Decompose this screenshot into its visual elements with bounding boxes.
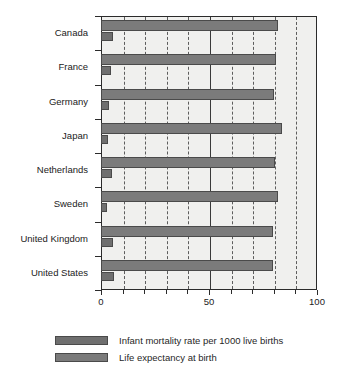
bar-infant-mortality xyxy=(101,32,113,41)
x-axis-tick-label: 0 xyxy=(98,296,103,308)
x-axis-tick-label: 50 xyxy=(204,296,215,308)
bars-layer xyxy=(101,16,317,290)
bar-infant-mortality xyxy=(101,66,111,75)
y-axis-label: Germany xyxy=(49,96,88,107)
y-axis-label: Japan xyxy=(62,130,88,141)
bar-chart: CanadaFranceGermanyJapanNetherlandsSwede… xyxy=(0,0,340,376)
bar-infant-mortality xyxy=(101,169,112,178)
y-axis-label: Sweden xyxy=(54,198,88,209)
legend-item: Life expectancy at birth xyxy=(55,349,340,366)
x-axis-tick-label: 100 xyxy=(309,296,325,308)
bar-infant-mortality xyxy=(101,203,107,212)
legend-label: Infant mortality rate per 1000 live birt… xyxy=(119,335,283,347)
x-axis-tick xyxy=(274,290,275,294)
x-axis-tick xyxy=(101,290,102,295)
legend-swatch-life xyxy=(55,353,108,362)
bar-life-expectancy xyxy=(101,54,276,65)
x-axis-tick xyxy=(295,290,296,294)
bar-group xyxy=(101,119,317,153)
bar-life-expectancy xyxy=(101,89,274,100)
y-axis-tick xyxy=(95,85,101,86)
bar-life-expectancy xyxy=(101,260,273,271)
x-axis-tick xyxy=(166,290,167,294)
bar-infant-mortality xyxy=(101,238,113,247)
bar-infant-mortality xyxy=(101,135,108,144)
bar-life-expectancy xyxy=(101,191,278,202)
legend-label: Life expectancy at birth xyxy=(119,352,217,364)
bar-group xyxy=(101,222,317,256)
y-axis-label: Canada xyxy=(55,27,88,38)
x-axis-tick xyxy=(209,290,210,295)
x-axis-tick xyxy=(252,290,253,294)
bar-group xyxy=(101,187,317,221)
y-axis-label: Netherlands xyxy=(37,164,88,175)
x-axis-tick xyxy=(123,290,124,294)
y-axis-label: France xyxy=(58,61,88,72)
y-axis-tick xyxy=(95,222,101,223)
bar-infant-mortality xyxy=(101,272,114,281)
x-axis-tick xyxy=(187,290,188,294)
bar-life-expectancy xyxy=(101,20,278,31)
bar-group xyxy=(101,16,317,50)
bar-life-expectancy xyxy=(101,157,275,168)
y-axis-tick xyxy=(95,119,101,120)
y-axis-tick xyxy=(95,187,101,188)
legend-swatch-infant xyxy=(55,336,108,345)
y-axis-labels: CanadaFranceGermanyJapanNetherlandsSwede… xyxy=(0,16,96,290)
y-axis-label: United States xyxy=(31,267,88,278)
y-axis-tick xyxy=(95,153,101,154)
bar-group xyxy=(101,153,317,187)
y-axis-tick xyxy=(95,256,101,257)
chart-legend: Infant mortality rate per 1000 live birt… xyxy=(55,332,340,366)
x-axis-tick xyxy=(231,290,232,294)
x-axis-tick-labels: 050100 xyxy=(0,296,340,310)
bar-infant-mortality xyxy=(101,101,109,110)
bar-group xyxy=(101,50,317,84)
y-axis-tick xyxy=(95,16,101,17)
x-axis-tick xyxy=(317,290,318,295)
x-axis-tick xyxy=(144,290,145,294)
bar-group xyxy=(101,85,317,119)
y-axis-label: United Kingdom xyxy=(20,233,88,244)
legend-item: Infant mortality rate per 1000 live birt… xyxy=(55,332,340,349)
bar-life-expectancy xyxy=(101,123,282,134)
bar-life-expectancy xyxy=(101,226,273,237)
bar-group xyxy=(101,256,317,290)
y-axis-tick xyxy=(95,50,101,51)
